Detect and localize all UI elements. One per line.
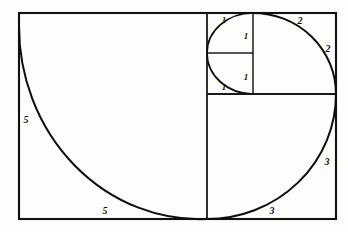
label-two-right: 2 [325,43,331,54]
label-five-bottom: 5 [103,205,108,216]
outer-rectangle-border [19,13,336,219]
figure-canvas: 5 5 3 3 2 2 1 1 1 1 [0,0,348,232]
label-one-top: 1 [222,15,227,25]
label-one-upper: 1 [244,31,249,41]
spiral-arc-5 [19,26,207,219]
fibonacci-spiral-figure: 5 5 3 3 2 2 1 1 1 1 [0,0,348,232]
label-five-left: 5 [24,114,29,125]
label-one-lower: 1 [244,72,249,82]
label-two-top: 2 [297,15,303,26]
spiral-arc-3 [207,94,336,219]
label-three-bottom: 3 [269,205,275,216]
label-three-right: 3 [324,156,330,167]
spiral-arc-2 [253,13,336,94]
label-one-bottom: 1 [222,82,227,92]
